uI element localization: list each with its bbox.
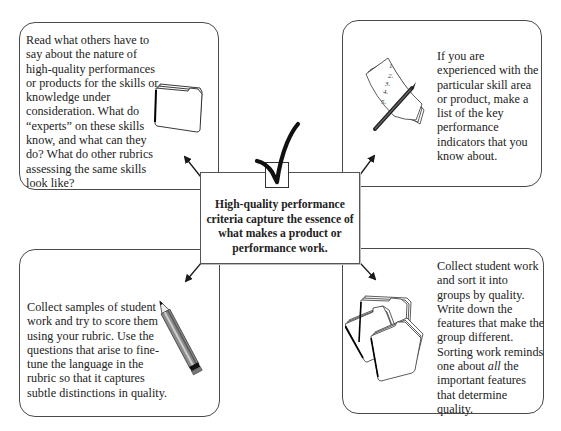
checkmark-icon bbox=[0, 0, 561, 431]
